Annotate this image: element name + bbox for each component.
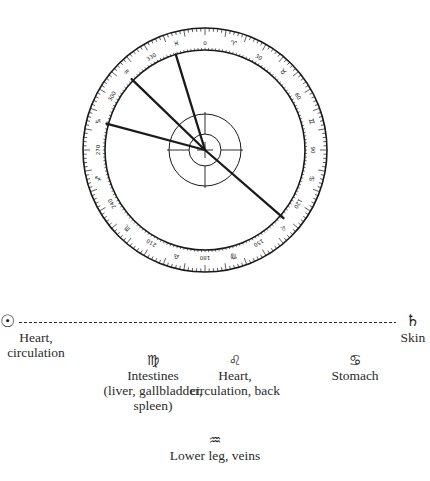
tick — [137, 248, 139, 251]
tick — [140, 250, 142, 253]
tick — [271, 248, 273, 251]
tick — [123, 59, 125, 62]
tick — [305, 85, 308, 87]
tick — [102, 213, 105, 215]
tick — [284, 238, 286, 241]
scale-number: 330 — [145, 51, 158, 62]
sun-icon: ☉ — [0, 312, 18, 330]
tick — [225, 30, 226, 37]
tick — [117, 65, 120, 67]
label-text: Stomach — [310, 368, 400, 383]
aquarius-icon: ♒ — [140, 432, 290, 448]
tick — [293, 68, 296, 70]
tick — [293, 72, 298, 76]
zodiac-glyph: ♑ — [94, 117, 103, 125]
tick — [127, 238, 131, 243]
dashed-axis-line — [14, 322, 422, 323]
tick — [271, 49, 273, 52]
tick — [144, 250, 148, 256]
tick — [293, 224, 298, 228]
zodiac-glyph: ♉ — [278, 67, 288, 77]
tick — [120, 62, 122, 65]
tick — [244, 35, 246, 42]
tick — [106, 220, 109, 222]
tick — [120, 235, 122, 238]
tick — [263, 250, 267, 256]
leo-icon: ♌ — [160, 352, 310, 368]
tick — [284, 59, 286, 62]
zodiac-glyph: ♏ — [122, 222, 133, 233]
tick — [123, 238, 125, 241]
sun-heart-label: ☉ Heart, circulation — [0, 312, 72, 360]
tick — [287, 235, 289, 238]
scale-number: 120 — [293, 198, 304, 211]
scale-number: 0 — [203, 40, 207, 46]
cancer-icon: ♋ — [310, 352, 400, 368]
tick — [318, 129, 325, 130]
scale-number: 150 — [252, 238, 265, 249]
scale-number: 180 — [199, 254, 210, 260]
zodiac-glyph: ♎ — [172, 252, 180, 261]
tick — [290, 232, 293, 234]
tick — [275, 246, 277, 249]
tick — [303, 82, 306, 84]
tick — [137, 49, 139, 52]
tick — [114, 68, 117, 70]
tick — [130, 243, 132, 246]
tick — [104, 216, 107, 218]
tick — [163, 258, 165, 265]
scale-number: 270 — [95, 144, 101, 155]
tick — [293, 229, 296, 231]
tick — [290, 65, 293, 67]
tick — [301, 220, 304, 222]
zodiac-glyph: ♍ — [229, 252, 237, 261]
tick — [133, 51, 135, 54]
astrological-dial: 0306090120150180210240270300330♈♉♊♋♌♍♎♏♐… — [0, 0, 430, 300]
scale-number: 300 — [107, 90, 118, 103]
tick — [263, 44, 267, 50]
tick — [301, 78, 304, 80]
tick — [144, 44, 148, 50]
saturn-skin-label: ♄ Skin — [396, 312, 430, 345]
tick — [279, 238, 283, 243]
tick — [117, 232, 120, 234]
tick — [268, 250, 270, 253]
tick — [305, 213, 308, 215]
zodiac-glyph: ♈ — [229, 39, 237, 48]
tick — [268, 47, 270, 50]
tick — [305, 208, 311, 212]
scale-number: 240 — [106, 197, 117, 210]
scale-number: 210 — [145, 238, 158, 249]
tick — [127, 57, 131, 62]
tick — [298, 223, 301, 225]
tick — [99, 208, 105, 212]
label-text: Lower leg, veins — [140, 448, 290, 463]
aquarius-leg-label: ♒ Lower leg, veins — [140, 432, 290, 463]
tick — [278, 243, 280, 246]
zodiac-glyph: ♓ — [172, 39, 180, 48]
scale-number: 30 — [254, 53, 264, 62]
scale-number: 60 — [294, 92, 303, 102]
tick — [244, 258, 246, 265]
tick — [90, 108, 97, 110]
label-text: Heart, — [0, 330, 72, 345]
label-text: spleen) — [78, 398, 228, 413]
label-text: circulation — [0, 345, 72, 360]
zodiac-glyph: ♌ — [278, 223, 288, 233]
tick — [184, 263, 185, 270]
tick — [85, 129, 92, 130]
saturn-icon: ♄ — [396, 312, 430, 330]
tick — [112, 224, 117, 228]
cancer-stomach-label: ♋ Stomach — [310, 352, 400, 383]
tick — [109, 223, 112, 225]
tick — [112, 72, 117, 76]
tick — [140, 47, 142, 50]
leo-heart-label: ♌ Heart, circulation, back — [160, 352, 310, 398]
tick — [275, 51, 277, 54]
tick — [225, 263, 226, 270]
zodiac-glyph: ♐ — [94, 174, 103, 182]
tick — [313, 189, 320, 191]
tick — [313, 108, 320, 110]
tick — [298, 75, 301, 77]
tick — [287, 62, 289, 65]
